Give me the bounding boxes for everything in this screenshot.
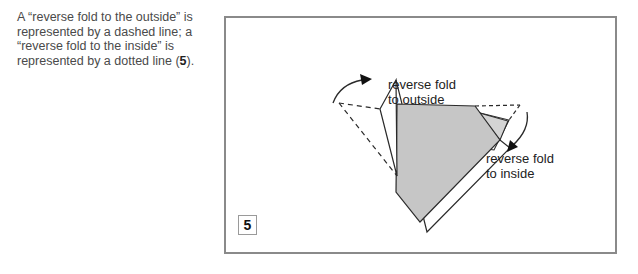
step-number-badge: 5 [238, 215, 257, 235]
diagram-frame: 5 [224, 16, 617, 254]
